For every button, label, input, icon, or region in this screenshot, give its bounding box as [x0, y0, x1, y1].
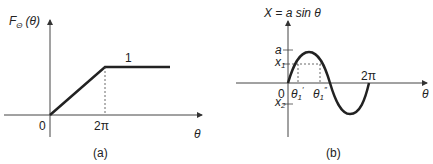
theta1-prime-label: θ1′ [291, 85, 304, 102]
panel-b-caption: (b) [326, 146, 341, 160]
cdf-curve [50, 67, 170, 115]
panel-b-y-label: X = a sin θ [263, 6, 321, 20]
panel-a-caption: (a) [93, 146, 108, 160]
panel-a: FΘ(θ) 1 0 2π θ (a) [4, 14, 202, 160]
plateau-label: 1 [125, 51, 132, 65]
panel-a-2pi-label: 2π [94, 119, 109, 133]
diagram-canvas: FΘ(θ) 1 0 2π θ (a) X = a sin θ a x1 x2 0… [0, 0, 433, 164]
panel-b-x-label: θ [422, 87, 429, 101]
panel-b: X = a sin θ a x1 x2 0 θ1′ θ1″ 2π θ (b) [236, 6, 429, 160]
panel-a-x-label: θ [194, 127, 201, 141]
panel-b-origin-label: 0 [278, 87, 285, 101]
panel-b-2pi-label: 2π [361, 69, 376, 83]
panel-a-origin-label: 0 [39, 119, 46, 133]
panel-a-y-label: FΘ(θ) [9, 14, 40, 30]
theta1-dprime-label: θ1″ [313, 85, 328, 102]
x1-label: x1 [274, 55, 285, 70]
